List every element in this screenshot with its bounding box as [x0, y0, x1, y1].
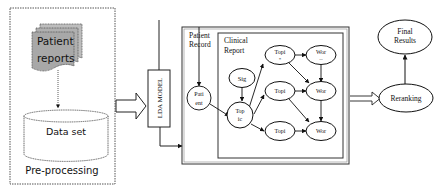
preprocessing-title: Pre-processing — [25, 165, 98, 176]
system-diagram: Patient reports Data set Pre-processing … — [0, 0, 448, 192]
lda-model-label: LDA MODEL — [156, 78, 164, 119]
block-arrow-to-reranking — [350, 92, 380, 105]
patient-node-label-2: ent — [195, 100, 203, 106]
patient-record-label-2: Record — [189, 40, 211, 49]
patient-node-label-1: Pati — [194, 91, 204, 97]
topic-node — [227, 102, 253, 128]
clinical-report-label-2: Report — [224, 46, 245, 55]
patient-reports-label-1: Patient — [37, 35, 74, 47]
clinical-report-label-1: Clinical — [224, 36, 248, 45]
wor-node-2-label: Wor — [316, 88, 326, 94]
lda-bottom-connector — [160, 127, 182, 146]
topic-node-label-1: Top — [235, 108, 244, 114]
dataset-label: Data set — [46, 126, 86, 137]
wor-node-1-label-2: -- — [319, 57, 323, 62]
final-results-label-2: Results — [394, 36, 416, 45]
wor-node-3-label: Wor — [316, 128, 326, 134]
patient-node — [187, 86, 211, 110]
patient-record-label-1: Patient — [189, 31, 211, 40]
reranking-label: Reranking — [390, 94, 421, 103]
final-results-label-1: Final — [397, 27, 412, 36]
topi-node-1-label-1: Topi — [275, 49, 286, 55]
sig-node-label: Sig — [238, 75, 247, 82]
topi-node-2-label: Topi — [275, 88, 286, 94]
wor-node-1-label-1: Wor — [316, 49, 326, 55]
topi-node-3-label: Topi — [275, 128, 286, 134]
topic-node-label-2: ic — [238, 116, 243, 122]
block-arrow-to-lda — [116, 93, 146, 119]
patient-reports-label-2: reports — [37, 52, 75, 64]
